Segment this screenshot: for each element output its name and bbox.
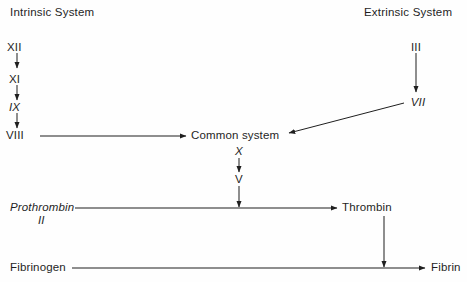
node-factor-vii: VII bbox=[411, 96, 426, 109]
node-prothrombin-numeral: II bbox=[38, 214, 45, 227]
node-factor-xi: XI bbox=[9, 73, 20, 86]
heading-intrinsic-system: Intrinsic System bbox=[10, 6, 94, 19]
node-common-system: Common system bbox=[191, 129, 279, 142]
node-fibrin: Fibrin bbox=[431, 261, 461, 274]
node-fibrinogen: Fibrinogen bbox=[10, 261, 66, 274]
heading-extrinsic-system: Extrinsic System bbox=[364, 6, 452, 19]
node-factor-iii: III bbox=[411, 41, 421, 54]
node-factor-x: X bbox=[235, 145, 243, 158]
arrow-vii-to-common-system bbox=[289, 103, 404, 133]
node-prothrombin: Prothrombin bbox=[10, 201, 74, 214]
node-factor-xii: XII bbox=[7, 41, 22, 54]
node-thrombin: Thrombin bbox=[342, 201, 392, 214]
node-factor-ix: IX bbox=[9, 101, 20, 114]
node-factor-viii: VIII bbox=[6, 129, 24, 142]
node-factor-v: V bbox=[235, 173, 243, 186]
coagulation-cascade-diagram: Intrinsic System Extrinsic System XII XI… bbox=[0, 0, 467, 282]
